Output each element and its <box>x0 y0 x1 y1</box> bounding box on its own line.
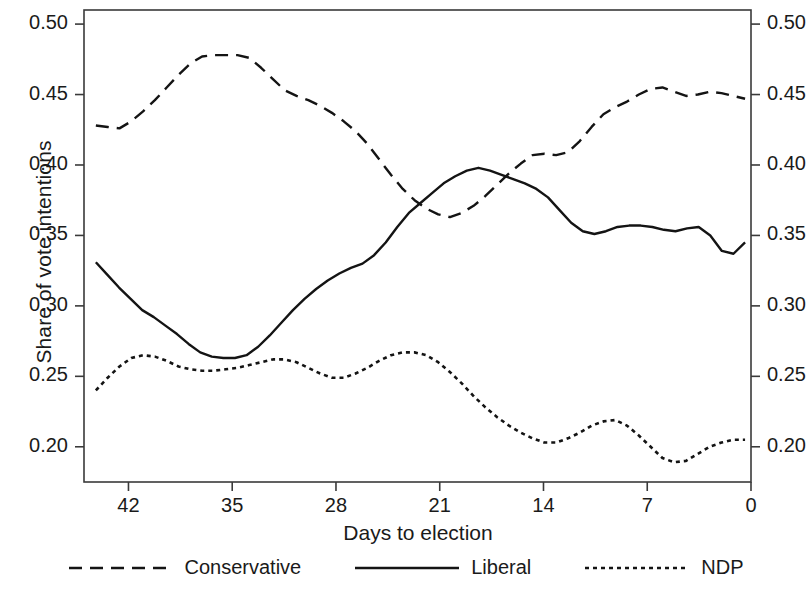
series-line-ndp <box>96 352 745 462</box>
series-line-liberal <box>96 168 745 358</box>
x-axis-title: Days to election <box>84 521 752 545</box>
y-tick-label-left: 0.45 <box>0 82 68 105</box>
y-tick-label-left: 0.35 <box>0 222 68 245</box>
axis-tick-marks <box>75 24 760 491</box>
legend-label: NDP <box>701 556 743 579</box>
data-series-group <box>96 55 745 462</box>
x-tick-label: 7 <box>617 494 677 517</box>
y-tick-label-right: 0.20 <box>767 434 810 457</box>
y-tick-label-right: 0.30 <box>767 293 810 316</box>
legend-label: Conservative <box>185 556 302 579</box>
chart-legend: ConservativeLiberalNDP <box>0 556 810 579</box>
plot-frame <box>84 10 751 482</box>
x-tick-label: 42 <box>98 494 158 517</box>
x-tick-label: 21 <box>410 494 470 517</box>
legend-label: Liberal <box>471 556 531 579</box>
y-tick-label-left: 0.30 <box>0 293 68 316</box>
y-tick-label-right: 0.35 <box>767 222 810 245</box>
x-tick-label: 0 <box>721 494 781 517</box>
y-tick-label-left: 0.50 <box>0 11 68 34</box>
y-tick-label-left: 0.40 <box>0 152 68 175</box>
y-tick-label-left: 0.25 <box>0 363 68 386</box>
series-line-conservative <box>96 55 745 217</box>
legend-swatch-solid-icon <box>353 561 461 575</box>
x-tick-label: 14 <box>513 494 573 517</box>
y-tick-label-right: 0.50 <box>767 11 810 34</box>
y-tick-label-right: 0.40 <box>767 152 810 175</box>
legend-item-conservative[interactable]: Conservative <box>67 556 302 579</box>
legend-item-ndp[interactable]: NDP <box>583 556 743 579</box>
y-tick-label-right: 0.25 <box>767 363 810 386</box>
legend-swatch-dotted-icon <box>583 561 691 575</box>
chart-figure: Share of vote intentions Days to electio… <box>0 0 810 590</box>
legend-item-liberal[interactable]: Liberal <box>353 556 531 579</box>
x-tick-label: 28 <box>306 494 366 517</box>
y-tick-label-left: 0.20 <box>0 434 68 457</box>
x-tick-label: 35 <box>202 494 262 517</box>
legend-swatch-dashed-icon <box>67 561 175 575</box>
y-tick-label-right: 0.45 <box>767 82 810 105</box>
